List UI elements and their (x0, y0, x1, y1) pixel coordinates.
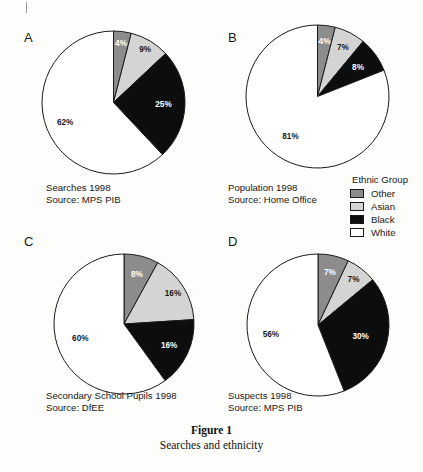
panel-caption-d: Suspects 1998 Source: MPS PIB (228, 390, 303, 415)
panel-b-source: Source: Home Office (228, 194, 317, 206)
legend-label-asian: Asian (371, 201, 395, 212)
pie-chart-c: 8%16%16%60% (53, 253, 195, 395)
pie-d-svg: 7%7%30%56% (246, 253, 390, 397)
legend-item-asian: Asian (350, 200, 422, 213)
pie-chart-a: 4%9%25%62% (41, 30, 186, 175)
scan-artifact-tick (26, 2, 27, 13)
pie-label-asian: 7% (337, 43, 350, 52)
pie-b-svg: 4%7%8%81% (245, 24, 390, 169)
panel-a-source: Source: MPS PIB (46, 194, 121, 206)
pie-label-white: 56% (263, 330, 280, 339)
panel-d-title: Suspects 1998 (228, 390, 291, 401)
pie-label-white: 81% (282, 132, 299, 141)
panel-letter-b: B (228, 30, 237, 45)
pie-label-asian: 16% (165, 289, 182, 298)
panel-letter-d: D (228, 234, 238, 249)
pie-label-black: 16% (161, 341, 178, 350)
legend-swatch-black-icon (350, 215, 364, 224)
panel-letter-a: A (24, 30, 33, 45)
legend-item-black: Black (350, 213, 422, 226)
panel-c-title: Secondary School Pupils 1998 (46, 390, 177, 401)
panel-b-title: Population 1998 (228, 182, 297, 193)
pie-label-black: 25% (155, 100, 172, 109)
pie-chart-b: 4%7%8%81% (245, 24, 390, 169)
legend-label-white: White (371, 227, 396, 238)
pie-label-other: 8% (131, 270, 144, 279)
legend-label-other: Other (371, 188, 395, 199)
pie-label-asian: 7% (348, 275, 361, 284)
pie-chart-d: 7%7%30%56% (246, 253, 390, 397)
figure-caption-block: Figure 1 Searches and ethnicity (0, 424, 423, 451)
pie-label-other: 4% (319, 37, 332, 46)
pie-label-other: 4% (115, 39, 128, 48)
legend-swatch-other-icon (350, 189, 364, 198)
panel-letter-c: C (24, 234, 34, 249)
pie-label-black: 8% (352, 63, 365, 72)
panel-a-title: Searches 1998 (46, 182, 111, 193)
pie-label-asian: 9% (139, 45, 152, 54)
figure-subtitle: Searches and ethnicity (0, 439, 423, 451)
pie-label-white: 60% (72, 334, 89, 343)
panel-caption-b: Population 1998 Source: Home Office (228, 182, 317, 207)
figure-page: A 4%9%25%62% Searches 1998 Source: MPS P… (0, 0, 423, 472)
pie-c-svg: 8%16%16%60% (53, 253, 195, 395)
panel-c-source: Source: DfEE (46, 402, 177, 414)
legend-label-black: Black (371, 214, 394, 225)
legend-swatch-asian-icon (350, 202, 364, 211)
legend: Ethnic Group Other Asian Black White (336, 174, 422, 239)
panel-caption-a: Searches 1998 Source: MPS PIB (46, 182, 121, 207)
legend-item-white: White (350, 226, 422, 239)
pie-a-svg: 4%9%25%62% (41, 30, 186, 175)
figure-title: Figure 1 (0, 424, 423, 436)
pie-label-black: 30% (352, 332, 369, 341)
pie-label-white: 62% (57, 118, 74, 127)
pie-label-other: 7% (324, 268, 337, 277)
legend-swatch-white-icon (350, 228, 364, 237)
panel-caption-c: Secondary School Pupils 1998 Source: DfE… (46, 390, 177, 415)
legend-title: Ethnic Group (338, 174, 422, 185)
panel-d-source: Source: MPS PIB (228, 402, 303, 414)
legend-item-other: Other (350, 187, 422, 200)
